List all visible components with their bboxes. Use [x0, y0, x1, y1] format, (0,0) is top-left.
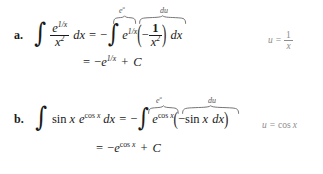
example-a-line-1: a. ∫e1/xx2dx=−∫e1/x(−1x2)dx: [14, 22, 182, 50]
differential-a-lhs: dx: [73, 28, 85, 42]
brace-label-du-b: du: [208, 96, 216, 105]
substitution-note-b: u=cosx: [262, 120, 297, 131]
differential-a-rhs: dx: [170, 28, 182, 42]
fraction-a-lhs-num-exponent: 1/x: [58, 19, 67, 28]
exp-cos-b-rhs: cos: [158, 111, 168, 120]
substitution-a-numerator: 1: [284, 30, 293, 40]
fraction-a-lhs-denominator: x2: [50, 35, 69, 50]
substitution-b-variable: u: [262, 120, 267, 130]
brace-label-du-a: du: [160, 6, 168, 15]
fraction-a-lhs-den-exponent: 2: [61, 34, 65, 43]
substitution-a-fraction: 1x: [284, 30, 293, 52]
substitution-a-denominator: x: [284, 40, 293, 51]
fraction-a-rhs-den-exponent: 2: [156, 34, 160, 43]
inner-differential-b: dx: [212, 112, 224, 126]
inner-sin-b: sin: [185, 112, 200, 126]
plus-b: +: [140, 141, 147, 155]
substitution-a-equals: =: [276, 35, 281, 45]
brace-label-eu-b-exponent: u: [160, 95, 162, 100]
sin-arg-b-lhs: x: [69, 112, 75, 126]
result-exp-cos-b: cos: [120, 140, 130, 149]
fraction-a-rhs-inner: 1x2: [149, 22, 162, 50]
equals-b-line1: =: [119, 112, 126, 126]
equals-b-line2: =: [96, 141, 103, 155]
worked-examples-page: eu du a. ∫e1/xx2dx=−∫e1/x(−1x2)dx =−e1/x…: [0, 0, 323, 174]
brace-label-du-a-text: du: [160, 6, 168, 15]
substitution-note-a: u=1x: [268, 30, 293, 52]
exp-exponent-b-rhs: cos x: [158, 111, 174, 120]
plus-a: +: [121, 55, 128, 69]
sin-b-lhs: sin: [52, 112, 67, 126]
substitution-b-equals: =: [270, 120, 275, 130]
exp-exponent-b-lhs: cos x: [85, 111, 101, 120]
close-paren-b: ): [224, 109, 228, 128]
close-paren-a: ): [162, 22, 166, 47]
equals-a-line1: =: [89, 28, 96, 42]
exp-cos-b-lhs: cos: [85, 111, 95, 120]
open-paren-a: (: [137, 22, 141, 47]
constant-a: C: [133, 55, 141, 69]
inner-minus-a: −: [142, 28, 149, 42]
fraction-a-lhs: e1/xx2: [50, 22, 69, 50]
brace-label-du-b-text: du: [208, 96, 216, 105]
inner-minus-b: −: [178, 112, 185, 126]
brace-label-eu-b: eu: [156, 96, 162, 105]
substitution-b-arg: x: [293, 120, 297, 130]
constant-b: C: [152, 141, 160, 155]
result-exponent-a: 1/x: [107, 54, 116, 63]
result-exponent-b: cos x: [120, 140, 136, 149]
example-a-line-2: =−e1/x+C: [83, 55, 142, 70]
example-b-label: b.: [14, 112, 24, 126]
equals-a-line2: =: [83, 55, 90, 69]
example-a-label: a.: [14, 28, 23, 42]
exp-exponent-a-rhs: 1/x: [128, 27, 137, 36]
inner-arg-b: x: [203, 112, 209, 126]
brace-label-eu-a-exponent: u: [123, 5, 125, 10]
substitution-b-cos: cos: [278, 120, 291, 130]
differential-b-lhs: dx: [103, 112, 115, 126]
result-exp-arg-b: x: [132, 140, 135, 149]
fraction-a-rhs-denominator: x2: [149, 35, 162, 50]
exp-arg-b-lhs: x: [97, 111, 100, 120]
substitution-a-variable: u: [268, 35, 273, 45]
example-b-line-1: b. ∫sinxecos xdx=−∫ecos x(−sinxdx): [14, 112, 228, 127]
minus-b-line1: −: [130, 112, 137, 126]
brace-label-eu-a: eu: [119, 6, 125, 15]
minus-a-line1: −: [100, 28, 107, 42]
example-b-line-2: =−ecos x+C: [96, 141, 161, 156]
open-paren-b: (: [174, 109, 178, 128]
